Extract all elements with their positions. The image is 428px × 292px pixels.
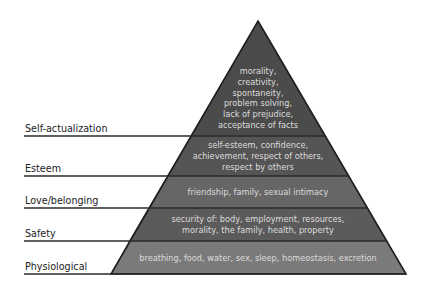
maslow-pyramid-diagram: Self-actualization Esteem Love/belonging… (0, 0, 428, 292)
esteem-line: achievement, respect of others, (193, 151, 324, 161)
love-belonging-line: friendship, family, sexual intimacy (188, 187, 329, 197)
esteem-line: respect by others (222, 162, 294, 172)
label-physiological: Physiological (25, 261, 87, 272)
label-self-actualization: Self-actualization (25, 123, 107, 134)
label-safety: Safety (25, 228, 56, 239)
label-esteem: Esteem (25, 163, 61, 174)
physiological-line: breathing, food, water, sex, sleep, home… (139, 253, 377, 263)
self-actualization-line: problem solving, (224, 98, 292, 108)
label-love-belonging: Love/belonging (25, 195, 98, 206)
level-labels: Self-actualization Esteem Love/belonging… (25, 123, 107, 272)
self-actualization-line: lack of prejudice, (223, 109, 293, 119)
safety-line: security of: body, employment, resources… (172, 214, 345, 224)
self-actualization-line: morality, (240, 66, 277, 76)
esteem-line: self-esteem, confidence, (208, 140, 308, 150)
self-actualization-line: acceptance of facts (218, 120, 298, 130)
self-actualization-line: spontaneity, (232, 88, 283, 98)
safety-line: morality, the family, health, property (182, 225, 334, 235)
self-actualization-line: creativity, (237, 77, 278, 87)
